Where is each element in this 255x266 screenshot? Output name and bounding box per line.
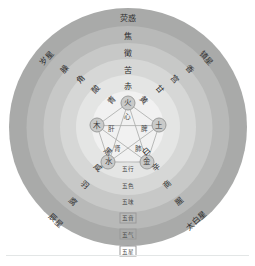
label-fire-color: 赤 [124, 80, 132, 91]
ring-tag-wuse: 五色 [120, 181, 135, 190]
element-node-fire[interactable]: 火 [120, 95, 135, 110]
five-elements-diagram: 火 土 金 水 木 心 脾 肺 肾 肝 赤 苦 徵 焦 荧惑 黄 甘 宫 香 镇… [0, 0, 255, 266]
ring-tag-wuqi: 五气 [119, 229, 136, 240]
label-fire-smell: 焦 [124, 30, 132, 41]
element-node-earth[interactable]: 土 [151, 118, 166, 133]
ring-tag-wuyin: 五音 [119, 212, 136, 223]
organ-label-heart: 心 [124, 111, 131, 121]
organ-label-kidney: 肾 [114, 143, 121, 153]
ring-tag-wuxing: 五行 [120, 164, 135, 173]
organ-label-spleen: 脾 [141, 123, 148, 133]
bottom-divider [6, 255, 249, 256]
organ-label-liver: 肝 [108, 123, 115, 133]
ring-tag-wuwei: 五味 [120, 197, 135, 206]
element-node-wood[interactable]: 木 [89, 118, 104, 133]
label-fire-planet: 荧惑 [120, 12, 136, 23]
label-fire-taste: 苦 [124, 64, 132, 75]
label-fire-tone: 徵 [124, 47, 132, 58]
